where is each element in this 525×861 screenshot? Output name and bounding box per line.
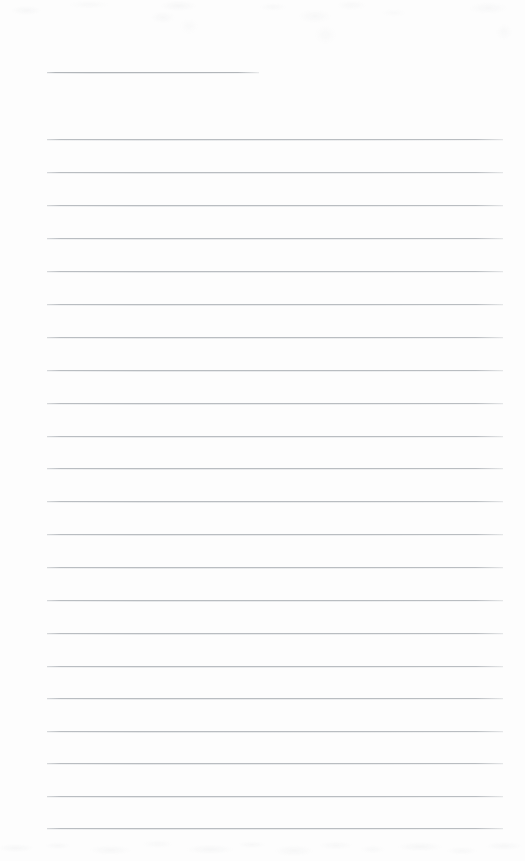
ruled-line xyxy=(47,796,503,797)
ruled-line xyxy=(47,304,503,305)
ruled-line xyxy=(47,633,503,634)
ruled-line xyxy=(47,828,503,829)
ruled-line xyxy=(47,271,503,272)
paper-texture-bottom xyxy=(0,827,525,861)
ruled-line xyxy=(47,666,503,667)
ruled-line xyxy=(47,698,503,699)
ruled-line xyxy=(47,567,503,568)
ruled-line xyxy=(47,238,503,239)
ruled-line xyxy=(47,501,503,502)
ruled-line xyxy=(47,403,503,404)
ruled-line xyxy=(47,205,503,206)
paper-texture-top xyxy=(0,0,525,58)
document-page xyxy=(0,0,525,861)
ruled-line xyxy=(47,72,259,73)
ruled-line xyxy=(47,337,503,338)
ruled-line xyxy=(47,534,503,535)
ruled-line xyxy=(47,139,503,140)
ruled-line xyxy=(47,172,503,173)
ruled-line xyxy=(47,600,503,601)
ruled-line xyxy=(47,370,503,371)
ruled-line xyxy=(47,731,503,732)
ruled-line xyxy=(47,468,503,469)
ruled-line xyxy=(47,763,503,764)
ruled-line xyxy=(47,436,503,437)
